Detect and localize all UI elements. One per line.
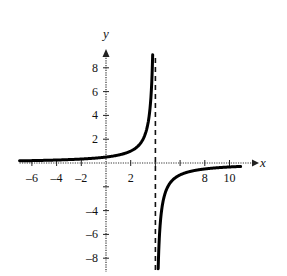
y-axis-label: y [101, 26, 109, 41]
y-tick-label: 8 [92, 61, 98, 75]
x-tick-label: 8 [202, 171, 208, 185]
y-tick-label: 6 [92, 85, 98, 99]
y-tick-label: –8 [85, 251, 98, 265]
x-axis-arrow-icon [252, 160, 259, 167]
y-tick-label: 2 [92, 132, 98, 146]
left-branch-curve [20, 55, 153, 161]
x-axis-label: x [259, 155, 266, 170]
function-curves [20, 55, 241, 269]
y-axis-arrow-icon [103, 49, 110, 57]
x-tick-label: 2 [128, 171, 134, 185]
x-tick-label: –4 [50, 171, 63, 185]
y-tick-label: –4 [85, 204, 98, 218]
y-tick-label: 4 [92, 108, 98, 122]
x-tick-label: –6 [25, 171, 38, 185]
x-tick-label: –2 [74, 171, 87, 185]
y-tick-label: –6 [85, 227, 98, 241]
x-tick-label: 10 [224, 171, 236, 185]
rational-function-graph: –6–4–22810–8–6–42468 x y [0, 0, 287, 276]
